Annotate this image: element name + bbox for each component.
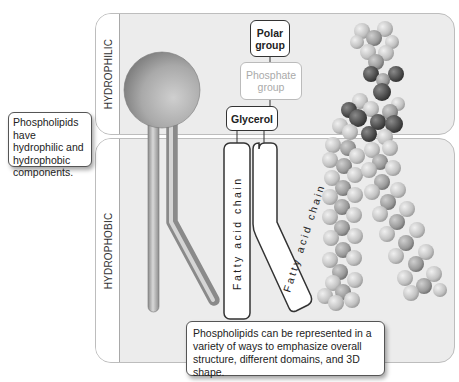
fatty-acid-chain-1-label: Fatty acid chain (231, 176, 243, 290)
polar-group-box: Polar group (250, 20, 290, 57)
simplified-phospholipid-model (124, 52, 214, 312)
tail-stick-bent (171, 118, 214, 300)
polar-group-label: Polar group (251, 27, 289, 51)
polar-head-sphere (124, 52, 200, 128)
glycerol-label: Glycerol (231, 113, 273, 125)
fatty-acid-chain-2-label: Fatty acid chain (280, 182, 327, 294)
tail-stick-straight (148, 118, 159, 312)
hydrophilic-hydrophobic-callout: Phospholipids have hydrophilic and hydro… (8, 112, 92, 167)
callout-bottom-text: Phospholipids can be represented in a va… (193, 327, 372, 378)
phosphate-group-label: Phosphate group (241, 69, 301, 93)
space-filling-3d-model (317, 21, 447, 311)
representation-callout: Phospholipids can be represented in a va… (186, 321, 385, 376)
phosphate-group-box: Phosphate group (240, 62, 302, 100)
glycerol-box: Glycerol (226, 106, 278, 131)
callout-left-text: Phospholipids have hydrophilic and hydro… (13, 116, 84, 178)
